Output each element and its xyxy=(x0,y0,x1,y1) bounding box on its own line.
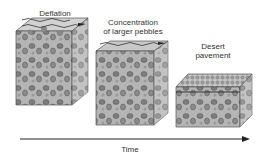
block-deflation xyxy=(16,18,88,105)
label-desert-pavement: Desert pavement xyxy=(188,42,238,60)
label-desert-line2: pavement xyxy=(188,51,238,60)
label-desert-line1: Desert xyxy=(188,42,238,51)
label-concentration-line2: of larger pebbles xyxy=(98,27,168,36)
block-desert-pavement xyxy=(176,74,252,127)
block-concentration xyxy=(96,41,168,125)
label-deflation: Deflation xyxy=(30,9,80,18)
label-concentration: Concentration of larger pebbles xyxy=(98,18,168,36)
axis-label-time: Time xyxy=(110,145,150,154)
time-arrow xyxy=(20,136,250,142)
label-concentration-line1: Concentration xyxy=(98,18,168,27)
